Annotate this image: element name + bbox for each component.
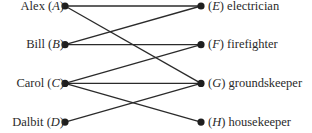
node-H: [197, 119, 204, 126]
left-label-B: Bill (B): [26, 37, 64, 51]
right-label-F: (F) firefighter: [208, 37, 278, 51]
right-label-H: (H) housekeeper: [208, 115, 291, 129]
right-label-E: (E) electrician: [208, 0, 279, 13]
node-E: [197, 2, 204, 9]
bipartite-graph: [0, 0, 312, 133]
node-F: [197, 41, 204, 48]
left-label-D: Dalbit (D): [12, 115, 64, 129]
right-label-G: (G) groundskeeper: [208, 76, 302, 90]
edge-B-E: [65, 6, 201, 45]
edge-C-F: [65, 45, 201, 84]
left-label-C: Carol (C): [16, 76, 64, 90]
node-G: [197, 80, 204, 87]
left-label-A: Alex (A): [21, 0, 64, 13]
